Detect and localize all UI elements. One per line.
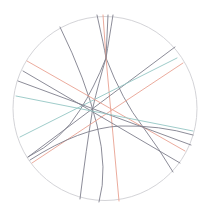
line-gray-g8 [30,126,193,160]
disk-diagram [0,0,203,218]
line-red-r3 [27,61,185,151]
line-gray-g2 [97,15,173,172]
line-gray-g7 [18,81,191,145]
line-teal-t1 [20,58,177,137]
diagram-canvas [0,0,203,218]
geodesic-lines [16,15,193,202]
line-red-r1 [103,15,119,201]
